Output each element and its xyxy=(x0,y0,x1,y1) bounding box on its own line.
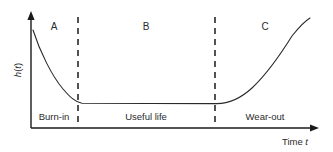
region-label-a: A xyxy=(51,21,58,32)
y-axis xyxy=(27,11,34,128)
x-axis-arrow-icon xyxy=(310,124,319,131)
x-axis-label-variable: t xyxy=(305,136,308,147)
hazard-rate-diagram: A B C Burn-in Useful life Wear-out h(t) … xyxy=(0,0,333,152)
y-axis-arrow-icon xyxy=(27,11,34,20)
x-axis xyxy=(31,124,319,131)
x-axis-label-text: Time xyxy=(282,136,303,147)
phase-label-burn-in: Burn-in xyxy=(39,111,70,122)
bathtub-curve-figure: A B C Burn-in Useful life Wear-out h(t) … xyxy=(0,0,333,152)
y-axis-label: h(t) xyxy=(12,63,23,77)
region-label-b: B xyxy=(143,21,150,32)
region-label-c: C xyxy=(261,21,268,32)
x-axis-label: Time t xyxy=(282,136,308,147)
phase-label-useful-life: Useful life xyxy=(125,111,167,122)
y-axis-label-paren-close: ) xyxy=(12,63,23,66)
phase-label-wear-out: Wear-out xyxy=(246,111,285,122)
